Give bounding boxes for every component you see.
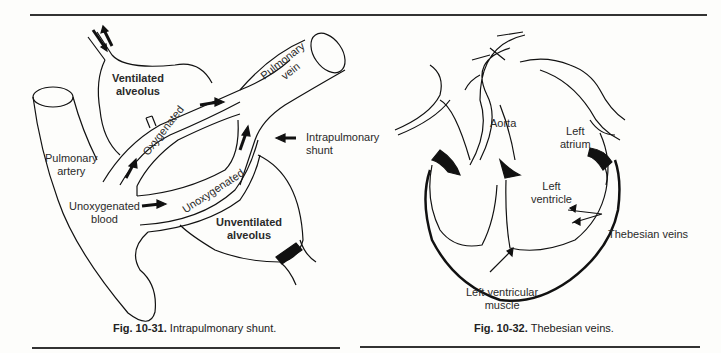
label-intrapulmonary-shunt: Intrapulmonary shunt	[306, 131, 379, 157]
label-left-ventricular-muscle: Left ventricular muscle	[466, 286, 538, 312]
label-left-ventricle: Left ventricle	[531, 180, 572, 206]
label-ventilated-alveolus: Ventilated alveolus	[112, 72, 164, 98]
caption-fig-10-31: Fig. 10-31. Intrapulmonary shunt.	[113, 322, 276, 334]
label-aorta: Aorta	[490, 117, 516, 130]
label-left-atrium: Left atrium	[560, 125, 591, 151]
label-unoxygenated-blood: Unoxygenated blood	[69, 200, 140, 226]
label-pulmonary-artery: Pulmonary artery	[45, 152, 98, 178]
label-unventilated-alveolus: Unventilated alveolus	[216, 216, 282, 242]
label-thebesian-veins: Thebesian veins	[608, 228, 688, 241]
caption-fig-10-32: Fig. 10-32. Thebesian veins.	[474, 322, 614, 334]
bottom-rule-right	[360, 346, 700, 348]
